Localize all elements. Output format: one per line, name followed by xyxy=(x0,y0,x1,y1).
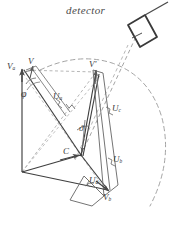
detector-title: detector xyxy=(66,4,105,16)
label-v-b: Vb xyxy=(103,193,111,203)
label-u-a: Ua xyxy=(53,92,62,102)
beam-axis-dashed xyxy=(75,28,140,160)
label-v-a: Va xyxy=(7,62,15,72)
vector-frame xyxy=(22,70,108,190)
figure-canvas: detector Va V V' φ ϑ Ua Uc Ub Ud C Vb xyxy=(0,0,175,233)
label-v-apex: V xyxy=(28,57,34,66)
label-angle-phi: φ xyxy=(21,89,27,99)
center-point-c xyxy=(80,154,83,157)
ud-shape xyxy=(70,176,104,206)
label-u-d: Ud xyxy=(89,176,98,186)
label-v-prime: V' xyxy=(89,60,96,69)
label-u-b: Ub xyxy=(113,155,122,165)
label-angle-theta: ϑ xyxy=(79,124,83,133)
label-center-c: C xyxy=(63,147,69,156)
vector-diagram-svg xyxy=(0,0,175,233)
label-u-c: Uc xyxy=(112,104,121,114)
vector-arrowheads xyxy=(22,66,109,191)
